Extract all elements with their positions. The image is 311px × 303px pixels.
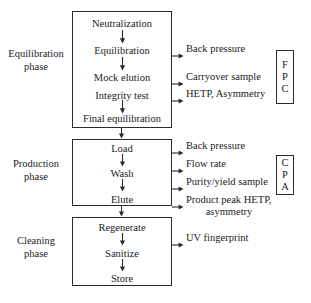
step-equilibration: Equilibration [73, 45, 171, 56]
badge-cpa: C P A [276, 155, 294, 195]
step-elute: Elute [73, 194, 171, 205]
step-store: Store [73, 273, 171, 284]
arrow-integrity-test-to-final-equilibration [118, 100, 127, 114]
step-neutralization: Neutralization [73, 18, 171, 29]
badge-letter-3: C [281, 83, 288, 95]
phase-label-equilibration-line2: phase [2, 61, 70, 74]
step-load: Load [73, 143, 171, 154]
phase-label-production-line1: Production [2, 158, 70, 171]
phase-box-production: Load Wash Elute [72, 139, 172, 206]
phase-label-cleaning-line2: phase [2, 248, 70, 261]
phase-box-cleaning: Regenerate Sanitize Store [72, 217, 172, 286]
measurement-label: Back pressure [184, 43, 245, 55]
measurement-label: Flow rate [184, 158, 226, 170]
arrow-equilibration-phase-to-production-phase [117, 128, 126, 139]
arrow-right-icon [172, 197, 184, 215]
measurement-label: Purity/yield sample [184, 176, 268, 188]
arrow-load-to-wash [118, 154, 127, 167]
badge-letter-2: P [282, 71, 288, 83]
measurement-uv-fingerprint: UV fingerprint [172, 232, 249, 253]
arrow-neutralization-to-equilibration [118, 30, 127, 44]
arrow-equilibration-to-mock-elution [118, 57, 127, 71]
measurement-label: HETP, Asymmetry [184, 88, 265, 100]
arrow-right-icon [172, 91, 184, 109]
step-final-equilibration: Final equilibration [73, 113, 171, 124]
measurement-label-line1: Product peak HETP, [186, 194, 271, 205]
measurement-label-multiline: Product peak HETP,asymmetry [184, 194, 278, 218]
measurement-product-peak-hetp-asymmetry: Product peak HETP,asymmetry [172, 194, 278, 218]
measurement-back-pressure-equilibration: Back pressure [172, 43, 245, 64]
badge-letter-3: A [281, 181, 289, 193]
phase-label-production-line2: phase [2, 171, 70, 184]
step-regenerate: Regenerate [73, 222, 171, 233]
phase-box-equilibration: Neutralization Equilibration Mock elutio… [72, 11, 172, 128]
badge-fpc: F P C [276, 50, 294, 104]
phase-label-equilibration: Equilibration phase [2, 48, 70, 73]
arrow-wash-to-elute [118, 179, 127, 192]
arrow-regenerate-to-sanitize [118, 233, 127, 246]
arrow-right-icon [172, 46, 184, 64]
measurement-label-line2: asymmetry [186, 206, 278, 218]
step-wash: Wash [73, 168, 171, 179]
phase-label-cleaning: Cleaning phase [2, 235, 70, 260]
measurement-label: Carryover sample [184, 71, 261, 83]
step-mock-elution: Mock elution [73, 72, 171, 83]
arrow-production-phase-to-cleaning-phase [117, 206, 126, 217]
measurement-label: Back pressure [184, 140, 245, 152]
arrow-right-icon [172, 235, 184, 253]
badge-letter-1: C [281, 157, 288, 169]
step-sanitize: Sanitize [73, 248, 171, 259]
arrow-sanitize-to-store [118, 259, 127, 272]
measurement-label: UV fingerprint [184, 232, 249, 244]
phase-label-cleaning-line1: Cleaning [2, 235, 70, 248]
phase-label-equilibration-line1: Equilibration [2, 48, 70, 61]
badge-letter-2: P [282, 169, 288, 181]
flowchart-diagram: Equilibration phase Neutralization Equil… [0, 0, 311, 303]
badge-letter-1: F [282, 59, 288, 71]
measurement-hetp-asymmetry: HETP, Asymmetry [172, 88, 265, 109]
phase-label-production: Production phase [2, 158, 70, 183]
